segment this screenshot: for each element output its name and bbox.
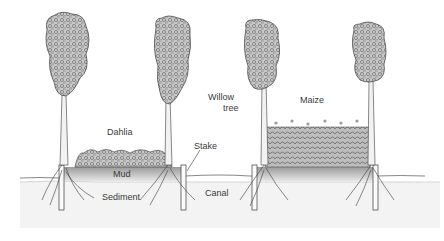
dahlia-bed	[75, 150, 172, 168]
label-willow-tree-line1: Willow	[208, 92, 234, 103]
label-willow-tree-line2: tree	[223, 103, 239, 114]
chinampa-illustration	[0, 0, 444, 241]
label-stake: Stake	[194, 141, 217, 152]
label-dahlia: Dahlia	[107, 127, 133, 138]
stake-leader-line	[187, 150, 200, 171]
maize-field	[265, 119, 370, 167]
chinampa-diagram: Dahlia Mud Sediment Stake Canal Willow t…	[0, 0, 444, 241]
label-maize: Maize	[300, 95, 324, 106]
label-mud: Mud	[113, 169, 131, 180]
label-canal: Canal	[205, 188, 229, 199]
mud-layer	[62, 167, 377, 181]
label-sediment: Sediment	[102, 192, 140, 203]
